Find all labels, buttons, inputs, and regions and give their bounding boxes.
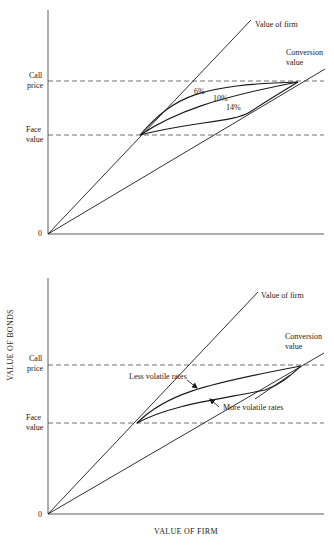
less-volatile-arrow-icon	[187, 380, 197, 388]
top-curve-10pct	[140, 82, 298, 135]
y-axis-title: VALUE OF BONDS	[6, 309, 15, 381]
top-face-value-label-2: value	[26, 135, 44, 144]
top-face-value-label-1: Face	[26, 125, 42, 134]
bottom-less-volatile-label: Less volatile rates	[129, 372, 187, 381]
top-origin-label: 0	[38, 229, 42, 238]
top-curve-label-10pct: 10%	[213, 94, 228, 103]
figure-canvas: Value of firm Conversion value Call pric…	[0, 0, 334, 545]
more-volatile-pointer-line	[255, 375, 290, 399]
bottom-face-value-label-1: Face	[26, 413, 42, 422]
top-panel: Value of firm Conversion value Call pric…	[26, 10, 325, 238]
bottom-more-volatile-label: More volatile rates	[223, 403, 283, 412]
bottom-panel: Value of firm Conversion value Call pric…	[26, 278, 324, 519]
bottom-origin-label: 0	[38, 510, 42, 519]
x-axis-title: VALUE OF FIRM	[154, 527, 218, 536]
top-curve-label-14pct: 14%	[226, 103, 241, 112]
more-volatile-arrow-icon	[210, 399, 219, 407]
bottom-conversion-label-1: Conversion	[285, 332, 322, 341]
bottom-call-price-label-2: price	[27, 364, 43, 373]
top-curve-label-6pct: 6%	[194, 87, 205, 96]
top-conversion-label-2: value	[286, 58, 304, 67]
bottom-call-price-label-1: Call	[29, 354, 43, 363]
top-conversion-label-1: Conversion	[286, 48, 323, 57]
top-conversion-value-line	[48, 69, 325, 234]
top-curve-6pct	[140, 82, 298, 135]
top-value-of-firm-label: Value of firm	[255, 20, 298, 29]
top-value-of-firm-line	[48, 20, 251, 234]
bottom-conversion-label-2: value	[285, 342, 303, 351]
top-call-price-label-1: Call	[29, 71, 43, 80]
top-curve-14pct	[140, 82, 298, 135]
bottom-face-value-label-2: value	[26, 423, 44, 432]
top-call-price-label-2: price	[27, 81, 43, 90]
bottom-value-of-firm-label: Value of firm	[261, 291, 304, 300]
